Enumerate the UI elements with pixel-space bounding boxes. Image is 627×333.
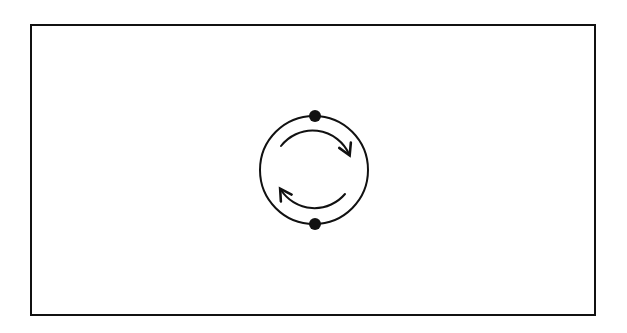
diagram-frame xyxy=(31,25,595,315)
bottom-node xyxy=(309,218,321,230)
top-node xyxy=(309,110,321,122)
upper-arrow-icon xyxy=(281,131,349,154)
diagram-canvas xyxy=(0,0,627,333)
lower-arrow-icon xyxy=(281,190,345,208)
